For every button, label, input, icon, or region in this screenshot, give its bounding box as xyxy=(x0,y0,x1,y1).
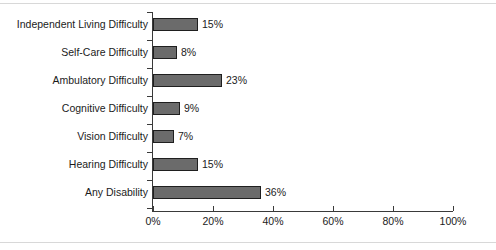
bar-value-label: 15% xyxy=(202,18,223,31)
x-axis-tick-label: 60% xyxy=(303,215,363,227)
x-axis-line xyxy=(152,211,453,212)
bar-value-label: 9% xyxy=(184,102,199,115)
bar-value-label: 23% xyxy=(226,74,247,87)
bar xyxy=(153,74,222,87)
x-axis-tick-label: 0% xyxy=(123,215,183,227)
bar xyxy=(153,186,261,199)
category-label: Ambulatory Difficulty xyxy=(52,74,148,87)
bar xyxy=(153,46,177,59)
bar-row: Ambulatory Difficulty23% xyxy=(0,68,496,96)
category-label: Independent Living Difficulty xyxy=(17,18,148,31)
y-axis-tick xyxy=(147,208,152,209)
x-axis-tick-label: 80% xyxy=(363,215,423,227)
category-label: Vision Difficulty xyxy=(77,130,148,143)
category-label: Hearing Difficulty xyxy=(69,158,148,171)
x-axis-tick-label: 20% xyxy=(183,215,243,227)
bar xyxy=(153,102,180,115)
bar-row: Cognitive Difficulty9% xyxy=(0,96,496,124)
category-label: Self-Care Difficulty xyxy=(61,46,148,59)
category-label: Any Disability xyxy=(85,186,148,199)
bar-value-label: 7% xyxy=(178,130,193,143)
bar-row: Hearing Difficulty15% xyxy=(0,152,496,180)
bar-value-label: 15% xyxy=(202,158,223,171)
x-axis-tick-label: 40% xyxy=(243,215,303,227)
bar-row: Vision Difficulty7% xyxy=(0,124,496,152)
x-axis-tick-label: 100% xyxy=(423,215,483,227)
category-label: Cognitive Difficulty xyxy=(62,102,148,115)
bar-value-label: 36% xyxy=(265,186,286,199)
plot-area: 0%20%40%60%80%100% Independent Living Di… xyxy=(0,0,496,250)
bar-value-label: 8% xyxy=(181,46,196,59)
bar xyxy=(153,18,198,31)
bar-row: Any Disability36% xyxy=(0,180,496,208)
bar-row: Self-Care Difficulty8% xyxy=(0,40,496,68)
bar xyxy=(153,130,174,143)
bar-chart-figure: 0%20%40%60%80%100% Independent Living Di… xyxy=(0,0,496,250)
bar-row: Independent Living Difficulty15% xyxy=(0,12,496,40)
bar xyxy=(153,158,198,171)
